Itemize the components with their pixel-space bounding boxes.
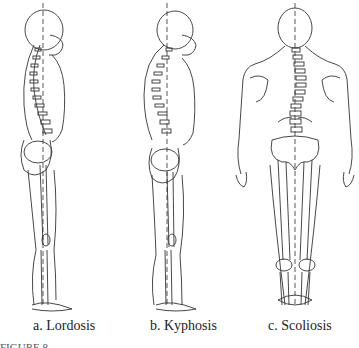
label-kyphosis: b. Kyphosis [150, 318, 217, 334]
label-scoliosis: c. Scoliosis [268, 318, 332, 334]
lordosis-figure [0, 0, 120, 315]
figure-caption-partial: FIGURE 8- [0, 340, 52, 348]
label-lordosis: a. Lordosis [33, 318, 95, 334]
kyphosis-figure [120, 0, 240, 315]
scoliosis-figure [230, 0, 359, 315]
